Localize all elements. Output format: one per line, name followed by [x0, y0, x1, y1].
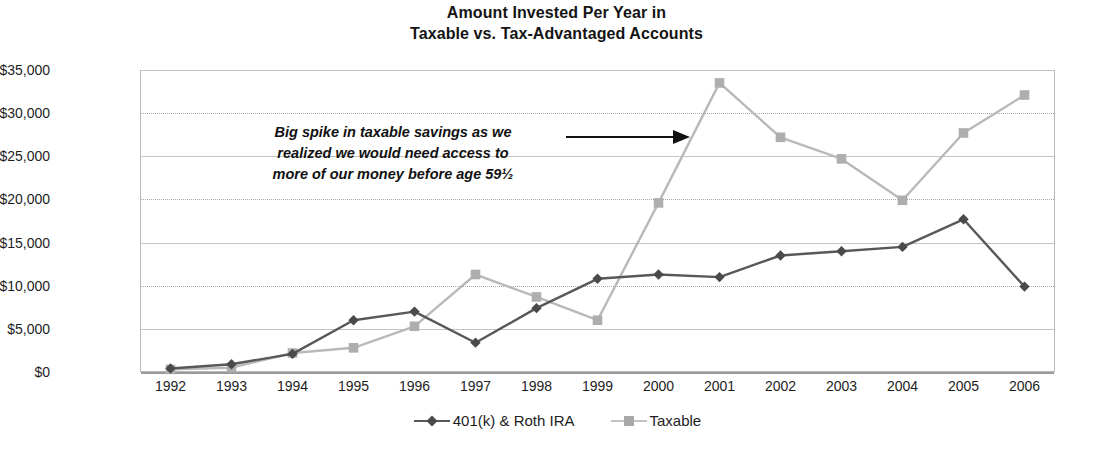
y-tick-label-15000: $15,000: [0, 235, 50, 251]
data-point-marker: [470, 337, 480, 347]
data-point-marker: [471, 270, 481, 280]
data-point-marker: [532, 292, 542, 302]
x-tick-label-2003: 2003: [812, 378, 872, 394]
data-point-marker: [653, 269, 663, 279]
data-point-marker: [654, 198, 664, 208]
data-point-marker: [531, 303, 541, 313]
data-point-marker: [410, 321, 420, 331]
square-line-key-icon: [609, 413, 649, 429]
data-point-marker: [348, 315, 358, 325]
series-line-401k-roth-ira: [171, 219, 1025, 368]
x-tick-label-2002: 2002: [751, 378, 811, 394]
data-point-marker: [837, 154, 847, 164]
legend-item-taxable[interactable]: Taxable: [609, 412, 702, 430]
chart-container: Amount Invested Per Year in Taxable vs. …: [0, 0, 1113, 464]
annotation-line-1: Big spike in taxable savings as we: [228, 122, 558, 143]
chart-legend: 401(k) & Roth IRA Taxable: [0, 412, 1113, 430]
x-tick-label-1996: 1996: [385, 378, 445, 394]
y-tick-label-0: $0: [0, 364, 50, 380]
data-series-layer: [140, 70, 1055, 372]
annotation-line-3: more of our money before age 59½: [228, 164, 558, 185]
x-tick-label-2000: 2000: [629, 378, 689, 394]
y-tick-label-10000: $10,000: [0, 278, 50, 294]
data-point-marker: [898, 195, 908, 205]
x-axis-baseline: [141, 372, 1054, 374]
data-point-marker: [836, 246, 846, 256]
diamond-line-key-icon: [412, 413, 452, 429]
x-tick-label-2004: 2004: [873, 378, 933, 394]
x-tick-label-1994: 1994: [263, 378, 323, 394]
data-point-marker: [959, 128, 969, 138]
data-point-marker: [775, 250, 785, 260]
data-point-marker: [715, 78, 725, 88]
x-tick-label-1993: 1993: [202, 378, 262, 394]
y-tick-label-35000: $35,000: [0, 62, 50, 78]
x-tick-label-1998: 1998: [507, 378, 567, 394]
data-point-marker: [897, 242, 907, 252]
x-tick-label-2001: 2001: [690, 378, 750, 394]
x-tick-label-1999: 1999: [568, 378, 628, 394]
chart-title-line-1: Amount Invested Per Year in: [447, 4, 666, 21]
chart-title: Amount Invested Per Year in Taxable vs. …: [0, 2, 1113, 44]
x-tick-label-1995: 1995: [324, 378, 384, 394]
x-tick-label-1997: 1997: [446, 378, 506, 394]
data-point-marker: [349, 343, 359, 353]
annotation-line-2: realized we would need access to: [228, 143, 558, 164]
data-point-marker: [409, 306, 419, 316]
y-tick-label-5000: $5,000: [0, 321, 50, 337]
data-point-marker: [593, 315, 603, 325]
legend-label-401k-roth-ira: 401(k) & Roth IRA: [453, 412, 575, 430]
data-point-marker: [592, 274, 602, 284]
chart-title-line-2: Taxable vs. Tax-Advantaged Accounts: [0, 23, 1113, 44]
y-tick-label-30000: $30,000: [0, 105, 50, 121]
x-tick-label-1992: 1992: [141, 378, 201, 394]
x-tick-label-2005: 2005: [934, 378, 994, 394]
data-point-marker: [776, 133, 786, 143]
y-tick-label-20000: $20,000: [0, 191, 50, 207]
data-point-marker: [1020, 90, 1030, 100]
annotation-taxable-spike: Big spike in taxable savings as we reali…: [228, 122, 558, 185]
y-tick-label-25000: $25,000: [0, 148, 50, 164]
legend-label-taxable: Taxable: [650, 412, 702, 430]
data-point-marker: [714, 272, 724, 282]
x-tick-label-2006: 2006: [995, 378, 1055, 394]
legend-item-401k-roth-ira[interactable]: 401(k) & Roth IRA: [412, 412, 575, 430]
